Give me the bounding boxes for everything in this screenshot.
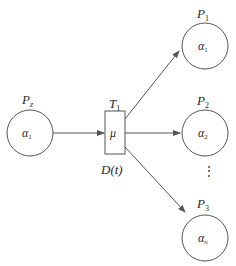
transition-rate: μ (109, 126, 116, 140)
place-p2: P2 α2 ⋮ (182, 93, 228, 178)
arc-t1-p3 (125, 147, 185, 212)
svg-text:P2: P2 (196, 93, 209, 110)
svg-text:αn: αn (198, 231, 208, 246)
transition-t1-label: T1 (109, 96, 120, 113)
place-pz: Pz α1 (7, 92, 53, 156)
svg-text:P1: P1 (196, 6, 209, 23)
petri-net-diagram: Pz α1 T1 μ D(t) P1 α1 P2 α2 ⋮ P3 αn (0, 0, 236, 266)
svg-text:α1: α1 (198, 39, 208, 54)
arc-t1-p1 (125, 51, 179, 119)
place-pz-label: Pz (21, 92, 34, 109)
ellipsis: ⋮ (203, 164, 215, 178)
transition-t1: T1 μ D(t) (100, 96, 125, 177)
place-p1: P1 α1 (182, 6, 228, 69)
svg-text:α2: α2 (198, 126, 208, 141)
transition-delay: D(t) (100, 162, 123, 177)
place-p3: P3 αn (182, 196, 228, 261)
svg-text:P3: P3 (196, 196, 209, 213)
place-pz-token: α1 (22, 126, 32, 141)
